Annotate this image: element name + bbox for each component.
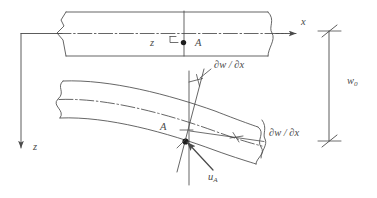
undeformed-beam-outline — [57, 12, 273, 56]
w-subscript: 0 — [354, 80, 358, 88]
angle-marker-upper — [189, 75, 203, 87]
beam-kinematics-figure: x z z A A ∂w / ∂x ∂w / ∂x uA w0 — [0, 0, 377, 198]
slope-upper-label: ∂w / ∂x — [214, 60, 244, 71]
right-angle-tick-top — [170, 37, 178, 43]
axial-displacement-label: uA — [208, 172, 218, 184]
tangent-line-at-a — [190, 131, 264, 142]
u-a-leader-arrow — [187, 142, 213, 170]
slope-lower-brace — [261, 120, 266, 158]
w-symbol: w — [347, 75, 354, 86]
x-axis-label: x — [301, 17, 306, 28]
z-offset-label: z — [150, 38, 154, 49]
global-z-axis — [21, 34, 62, 149]
w0-dimension — [318, 25, 341, 147]
z-axis-label: z — [33, 142, 37, 153]
point-a-label-top: A — [195, 38, 201, 49]
slope-lower-label: ∂w / ∂x — [269, 128, 299, 139]
w0-label: w0 — [347, 76, 358, 88]
point-a-dot-top — [181, 40, 186, 45]
slope-upper-leader — [200, 69, 211, 78]
figure-canvas — [0, 0, 377, 198]
u-subscript: A — [213, 176, 217, 184]
point-a-label-bottom: A — [160, 122, 166, 133]
